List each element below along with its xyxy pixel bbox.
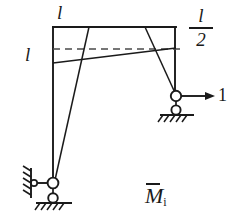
right-ground-hatching: [158, 115, 187, 122]
moment-diagonal-left-column: [55, 27, 89, 180]
right-height-fraction-label: l 2: [188, 6, 214, 49]
left-roller-circle: [48, 193, 58, 203]
left-base-support: [23, 166, 72, 210]
diagram-caption: M i: [145, 182, 167, 207]
moment-diagonal-right-column: [145, 27, 176, 95]
left-wall-hatching: [23, 166, 31, 195]
caption-subscript: i: [163, 196, 166, 208]
caption-symbol: M: [145, 182, 163, 207]
fraction-denominator: 2: [196, 30, 206, 50]
left-hinge-circle: [48, 178, 59, 189]
unit-force-arrow-head: [205, 92, 215, 100]
left-ground-hatching: [35, 203, 64, 210]
unit-force-arrow: [181, 92, 215, 100]
moment-diagram-figure: l l l 2 1 M i: [0, 0, 233, 217]
fraction-numerator: l: [198, 6, 203, 26]
unit-force-label: 1: [218, 86, 227, 104]
right-hinge-circle: [171, 91, 181, 101]
top-span-label: l: [57, 3, 62, 22]
left-height-label: l: [25, 45, 30, 64]
right-roller-circle: [171, 105, 180, 114]
